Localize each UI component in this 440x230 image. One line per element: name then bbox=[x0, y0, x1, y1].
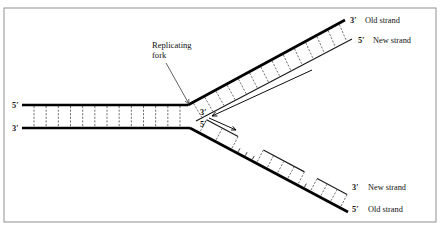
fork-inner-bottom-prime-label: 5′ bbox=[200, 120, 206, 129]
upper-old-strand-prime-label: 3′ bbox=[350, 16, 356, 25]
lower-new-strand-label: New strand bbox=[368, 183, 407, 192]
parent-top-prime-label: 5′ bbox=[12, 101, 18, 110]
figure-background bbox=[0, 0, 440, 230]
lower-old-strand-prime-label: 5′ bbox=[352, 205, 358, 214]
fork-inner-top-prime-label: 3′ bbox=[200, 108, 206, 117]
replicating-fork-label-line1: Replicating bbox=[152, 40, 192, 50]
lower-new-strand-prime-label: 3′ bbox=[352, 183, 358, 192]
replicating-fork-label-line2: fork bbox=[152, 50, 167, 60]
upper-new-strand-label: New strand bbox=[373, 36, 412, 45]
upper-new-strand-prime-label: 5′ bbox=[358, 36, 364, 45]
replication-fork-figure: Replicating fork 5′ 3′ 3′ 5′ 3′ Old stra… bbox=[0, 0, 440, 230]
dna-replication-diagram: Replicating fork 5′ 3′ 3′ 5′ 3′ Old stra… bbox=[0, 0, 440, 230]
lower-old-strand-label: Old strand bbox=[368, 205, 404, 214]
parent-bottom-prime-label: 3′ bbox=[12, 124, 18, 133]
upper-old-strand-label: Old strand bbox=[365, 16, 401, 25]
